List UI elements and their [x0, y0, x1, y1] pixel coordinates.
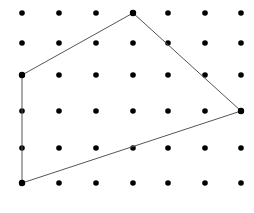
peg-dot-r6-c4[interactable]	[130, 180, 136, 186]
peg-dot-r3-c2[interactable]	[56, 72, 62, 78]
peg-dot-r5-c3[interactable]	[93, 145, 99, 151]
peg-dot-r5-c5[interactable]	[165, 145, 171, 151]
peg-dot-r4-c5[interactable]	[165, 108, 171, 114]
shape-right-vertex[interactable]	[238, 108, 244, 114]
shape-bottom-left-vertex[interactable]	[19, 180, 25, 186]
peg-dot-r6-c6[interactable]	[202, 180, 208, 186]
peg-dot-r6-c5[interactable]	[165, 180, 171, 186]
peg-dot-r1-c7[interactable]	[238, 10, 244, 16]
shape-top-vertex[interactable]	[130, 10, 136, 16]
peg-dot-r4-c6[interactable]	[202, 108, 208, 114]
peg-dot-r5-c6[interactable]	[202, 145, 208, 151]
peg-dot-r4-c3[interactable]	[93, 108, 99, 114]
peg-dot-r2-c7[interactable]	[238, 40, 244, 46]
peg-dot-r2-c4[interactable]	[130, 40, 136, 46]
peg-dot-r1-c3[interactable]	[93, 10, 99, 16]
peg-dot-r5-c2[interactable]	[56, 145, 62, 151]
peg-dot-r6-c3[interactable]	[93, 180, 99, 186]
peg-dot-r2-c3[interactable]	[93, 40, 99, 46]
peg-dot-r4-c4[interactable]	[130, 108, 136, 114]
canvas-background	[0, 0, 254, 213]
peg-dot-r6-c2[interactable]	[56, 180, 62, 186]
peg-dot-r1-c5[interactable]	[165, 10, 171, 16]
geoboard-canvas	[0, 0, 254, 213]
peg-dot-r1-c1[interactable]	[19, 10, 25, 16]
peg-dot-r2-c6[interactable]	[202, 40, 208, 46]
peg-dot-r3-c5[interactable]	[165, 72, 171, 78]
peg-dot-r1-c6[interactable]	[202, 10, 208, 16]
peg-dot-r3-c7[interactable]	[238, 72, 244, 78]
peg-dot-r5-c7[interactable]	[238, 145, 244, 151]
peg-dot-r2-c2[interactable]	[56, 40, 62, 46]
peg-dot-r4-c2[interactable]	[56, 108, 62, 114]
peg-dot-r1-c2[interactable]	[56, 10, 62, 16]
shape-left-vertex[interactable]	[19, 72, 25, 78]
geoboard-figure	[0, 0, 254, 213]
peg-dot-r3-c4[interactable]	[130, 72, 136, 78]
peg-dot-r2-c1[interactable]	[19, 40, 25, 46]
peg-dot-r6-c7[interactable]	[238, 180, 244, 186]
peg-dot-r3-c3[interactable]	[93, 72, 99, 78]
